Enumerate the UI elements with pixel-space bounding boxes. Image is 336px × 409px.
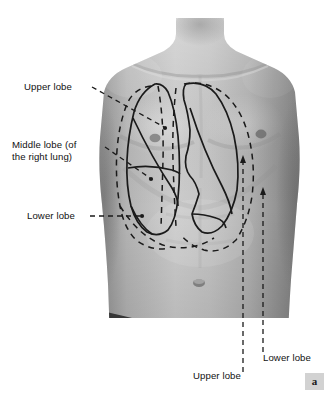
torso-photograph <box>98 18 302 336</box>
label-lower-lobe-right: Lower lobe <box>27 210 75 222</box>
label-upper-lobe-right: Upper lobe <box>24 81 72 93</box>
label-upper-lobe-left: Upper lobe <box>193 370 241 382</box>
photo-bottom-mask <box>98 318 302 336</box>
nipple-right <box>150 134 161 142</box>
panel-marker-badge: a <box>305 373 324 390</box>
torso-skin <box>98 18 302 336</box>
nipple-left <box>256 130 267 139</box>
label-middle-lobe-right: Middle lobe (of the right lung) <box>12 139 76 162</box>
torso-image <box>98 18 302 336</box>
figure-panel: Upper lobe Middle lobe (of the right lun… <box>0 0 336 409</box>
label-lower-lobe-left: Lower lobe <box>263 352 311 364</box>
